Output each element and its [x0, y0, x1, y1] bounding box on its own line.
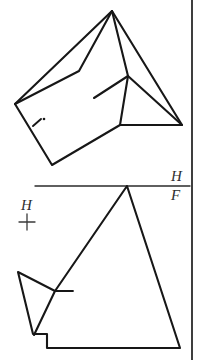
- reference-line-label-f: F: [171, 188, 180, 203]
- front-view-outline: [18, 186, 180, 348]
- plus-marker-group: [19, 214, 35, 230]
- technical-drawing-canvas: [0, 0, 199, 360]
- h-plane-label: H: [21, 198, 32, 213]
- top-view-edge-short-branch: [94, 76, 128, 98]
- top-view-point-dot: [43, 118, 46, 121]
- reference-line-label-h: H: [171, 169, 182, 184]
- front-view-edge-notch-diagonal: [34, 291, 55, 335]
- top-view-tick-mark: [33, 119, 41, 126]
- top-view-edge-vertical-fold: [120, 76, 128, 125]
- front-view-group: [18, 186, 180, 348]
- top-view-group: [15, 11, 182, 165]
- drawing-sheet: H F H: [0, 0, 199, 360]
